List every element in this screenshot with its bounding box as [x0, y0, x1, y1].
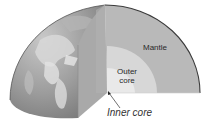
outer-core-label-line2: core — [117, 76, 137, 85]
earth-cutaway-diagram — [0, 0, 211, 125]
outer-core-label: Outer core — [117, 67, 137, 85]
inner-core-pointer — [108, 91, 120, 108]
mantle-label: Mantle — [143, 44, 167, 52]
inner-core-label: Inner core — [107, 108, 152, 118]
outer-core-label-line1: Outer — [117, 67, 137, 76]
